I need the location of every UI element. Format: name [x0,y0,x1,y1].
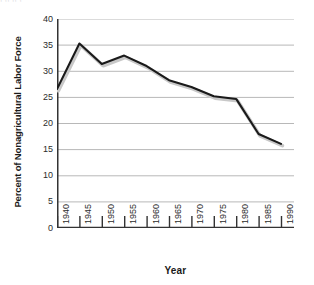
x-axis-tick-label: 1990 [285,204,295,234]
x-axis-tick-label: 1955 [128,204,138,234]
x-axis-tick-label: 1960 [151,204,161,234]
x-axis-tick-label: 1970 [195,204,205,234]
x-axis-tick-labels: 1940194519501955196019651970197519801985… [0,0,314,285]
x-axis-tick-label: 1940 [61,204,71,234]
x-axis-tick-label: 1975 [218,204,228,234]
x-axis-tick-label: 1945 [83,204,93,234]
x-axis-tick-label: 1965 [173,204,183,234]
x-axis-tick-label: 1950 [106,204,116,234]
x-axis-tick-label: 1980 [240,204,250,234]
x-axis-tick-label: 1985 [263,204,273,234]
line-chart-figure: Percent of Nonagricultural Labor Force 0… [0,0,314,285]
x-axis-title: Year [57,265,294,276]
